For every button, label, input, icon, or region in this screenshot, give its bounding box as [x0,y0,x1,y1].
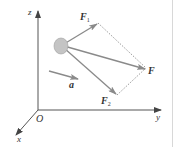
f2-label: F2 [100,95,111,107]
x-axis [16,110,38,135]
diagram-canvas: z O y x F1 F F2 a [0,0,177,147]
vector-f-arrow [64,46,145,69]
y-axis-label: y [155,112,160,122]
dotted-line-f2-f [117,68,146,95]
f-label: F [147,65,155,76]
vector-a-arrow [49,71,78,79]
force-diagram: z O y x F1 F F2 a [0,0,177,147]
f1-label: F1 [79,11,90,23]
vector-f1-arrow [64,24,97,44]
body-blob [54,38,68,54]
origin-label: O [36,113,43,124]
z-axis-label: z [27,7,32,17]
x-axis-label: x [16,134,21,144]
a-label: a [69,79,74,90]
f1-label-sub: 1 [87,17,90,23]
dotted-line-f1-f [98,23,146,68]
f2-label-sub: 2 [108,101,111,107]
